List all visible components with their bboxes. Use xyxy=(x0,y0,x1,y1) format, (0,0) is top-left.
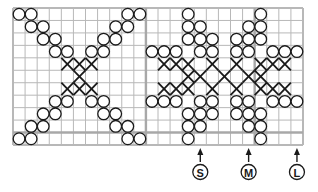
circle-stitch-icon xyxy=(110,108,122,120)
circle-stitch-icon xyxy=(255,120,267,132)
cross-stitch-icon xyxy=(206,83,218,95)
circle-stitch-icon xyxy=(194,108,206,120)
cross-stitch-icon xyxy=(231,58,243,70)
circle-stitch-icon xyxy=(122,133,134,145)
circle-stitch-icon xyxy=(231,96,243,108)
circle-stitch-icon xyxy=(110,33,122,45)
circle-stitch-icon xyxy=(194,21,206,33)
circle-stitch-icon xyxy=(182,21,194,33)
cross-stitch-icon xyxy=(170,58,182,70)
circle-stitch-icon xyxy=(110,21,122,33)
circle-stitch-icon xyxy=(243,46,255,58)
cross-stitch-icon xyxy=(86,58,98,70)
cross-stitch-icon xyxy=(231,83,243,95)
cross-stitch-icon xyxy=(158,83,170,95)
circle-stitch-icon xyxy=(62,46,74,58)
cross-stitch-icon xyxy=(255,58,267,70)
circle-stitch-icon xyxy=(267,96,279,108)
circle-stitch-icon xyxy=(158,96,170,108)
cross-stitch-icon xyxy=(86,83,98,95)
size-label: S xyxy=(197,167,204,179)
circle-stitch-icon xyxy=(122,21,134,33)
circle-stitch-icon xyxy=(255,21,267,33)
circle-stitch-icon xyxy=(98,96,110,108)
circle-stitch-icon xyxy=(182,33,194,45)
circle-stitch-icon xyxy=(98,46,110,58)
size-marker-l: L xyxy=(289,148,304,180)
circle-stitch-icon xyxy=(122,120,134,132)
circle-stitch-icon xyxy=(122,8,134,20)
cross-stitch-icon xyxy=(61,83,73,95)
circle-stitch-icon xyxy=(291,46,303,58)
cross-stitch-icon xyxy=(73,70,85,82)
circle-stitch-icon xyxy=(62,96,74,108)
circle-stitch-icon xyxy=(134,8,146,20)
circle-stitch-icon xyxy=(243,120,255,132)
circle-stitch-icon xyxy=(255,33,267,45)
circle-stitch-icon xyxy=(194,120,206,132)
circle-stitch-icon xyxy=(231,108,243,120)
cross-stitch-icon xyxy=(267,58,279,70)
size-marker-m: M xyxy=(241,148,256,180)
circle-stitch-icon xyxy=(37,120,49,132)
circle-stitch-icon xyxy=(267,46,279,58)
size-markers: SML xyxy=(193,148,305,180)
cross-stitch-icon xyxy=(279,58,291,70)
circle-stitch-icon xyxy=(291,96,303,108)
circle-stitch-icon xyxy=(255,108,267,120)
circle-stitch-icon xyxy=(25,8,37,20)
circle-stitch-icon xyxy=(158,46,170,58)
circle-stitch-icon xyxy=(37,108,49,120)
circle-stitch-icon xyxy=(207,33,219,45)
arrow-up-icon xyxy=(246,148,252,155)
cross-stitch-icon xyxy=(73,83,85,95)
circle-stitch-icon xyxy=(98,33,110,45)
circle-stitch-icon xyxy=(207,108,219,120)
circle-stitch-icon xyxy=(49,96,61,108)
cross-stitch-icon xyxy=(255,70,267,82)
circle-stitch-icon xyxy=(231,46,243,58)
cross-stitch-icon xyxy=(267,83,279,95)
circle-stitch-icon xyxy=(243,108,255,120)
cross-stitch-icon xyxy=(218,70,230,82)
circle-stitch-icon xyxy=(170,46,182,58)
circle-stitch-icon xyxy=(49,33,61,45)
circle-stitch-icon xyxy=(25,21,37,33)
arrow-up-icon xyxy=(197,148,203,155)
cross-stitch-icon xyxy=(206,58,218,70)
circle-stitch-icon xyxy=(194,96,206,108)
circle-stitch-icon xyxy=(279,46,291,58)
circle-stitch-icon xyxy=(37,21,49,33)
circle-stitch-icon xyxy=(243,33,255,45)
circle-stitch-icon xyxy=(13,133,25,145)
circle-stitch-icon xyxy=(134,133,146,145)
cross-stitch-icon xyxy=(170,83,182,95)
cross-stitch-icon xyxy=(73,58,85,70)
circle-stitch-icon xyxy=(13,8,25,20)
size-label: L xyxy=(294,167,301,179)
cross-stitch-icon xyxy=(182,58,194,70)
circle-stitch-icon xyxy=(110,120,122,132)
circle-stitch-icon xyxy=(231,33,243,45)
circle-stitch-icon xyxy=(243,96,255,108)
size-marker-s: S xyxy=(193,148,208,180)
circle-stitch-icon xyxy=(86,46,98,58)
circle-stitch-icon xyxy=(37,33,49,45)
circle-stitch-icon xyxy=(182,133,194,145)
circle-stitch-icon xyxy=(49,46,61,58)
circle-stitch-icon xyxy=(182,8,194,20)
circle-stitch-icon xyxy=(279,96,291,108)
cross-stitch-icon xyxy=(182,83,194,95)
cross-stitch-icon xyxy=(279,83,291,95)
circle-stitch-icon xyxy=(170,96,182,108)
circle-stitch-icon xyxy=(25,133,37,145)
circle-stitch-icon xyxy=(25,120,37,132)
cross-stitch-icon xyxy=(158,58,170,70)
circle-stitch-icon xyxy=(86,96,98,108)
circle-stitch-icon xyxy=(243,21,255,33)
circle-stitch-icon xyxy=(49,108,61,120)
circle-stitch-icon xyxy=(207,46,219,58)
circle-stitch-icon xyxy=(207,96,219,108)
cross-stitch-icon xyxy=(194,70,206,82)
size-label: M xyxy=(244,167,253,179)
